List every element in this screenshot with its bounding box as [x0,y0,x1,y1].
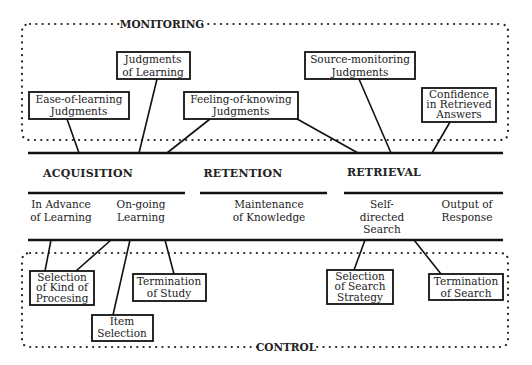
svg-text:of Knowledge: of Knowledge [233,211,306,223]
box-selection-of-kind: Selection of Kind of Procesing [30,271,94,305]
svg-text:of Learning: of Learning [30,211,92,223]
svg-text:Selection: Selection [97,327,147,339]
box-feeling-of-knowing: Feeling-of-knowing Judgments [184,92,298,119]
svg-text:Judgments: Judgments [50,105,108,117]
phase-retrieval: RETRIEVAL [347,166,421,179]
svg-text:Termination: Termination [137,275,202,287]
svg-text:directed: directed [360,211,405,223]
phase-acquisition: ACQUISITION [42,167,133,180]
svg-text:On-going: On-going [117,198,166,210]
box-judgments-of-learning: Judgments of Learning [117,52,190,79]
svg-text:Judgments: Judgments [212,105,270,117]
control-label: CONTROL [256,341,317,353]
monitoring-label: MONITORING [120,18,204,30]
svg-text:Strategy: Strategy [337,291,383,303]
svg-text:Procesing: Procesing [36,292,89,304]
box-termination-of-search: Termination of Search [429,274,503,300]
svg-text:Judgments: Judgments [331,66,389,78]
box-source-monitoring: Source-monitoring Judgments [305,52,415,79]
sub-self-directed: Self- directed Search [360,198,405,235]
svg-text:Feeling-of-knowing: Feeling-of-knowing [190,93,292,105]
svg-text:Judgments: Judgments [124,53,182,65]
box-confidence: Confidence in Retrieved Answers [422,88,496,122]
svg-text:Termination: Termination [434,275,499,287]
svg-text:In Advance: In Advance [31,198,91,210]
phase-retention: RETENTION [204,167,283,180]
svg-text:of Study: of Study [147,287,191,299]
svg-text:Learning: Learning [117,211,165,223]
svg-text:of Learning: of Learning [122,66,184,78]
svg-text:Output of: Output of [442,198,494,210]
sub-output-of-response: Output of Response [442,198,494,223]
box-termination-of-study: Termination of Study [133,274,206,301]
svg-text:Item: Item [110,315,135,327]
box-selection-of-search-strategy: Selection of Search Strategy [327,270,393,304]
svg-text:Maintenance: Maintenance [234,198,303,210]
svg-text:Response: Response [442,211,493,223]
svg-text:of Search: of Search [441,287,492,299]
sub-maintenance: Maintenance of Knowledge [233,198,306,223]
svg-text:Self-: Self- [370,198,394,210]
svg-text:Source-monitoring: Source-monitoring [310,53,410,65]
box-ease-of-learning: Ease-of-learning Judgments [29,92,129,119]
svg-text:Answers: Answers [435,108,481,120]
svg-text:Search: Search [363,223,401,235]
svg-text:Ease-of-learning: Ease-of-learning [36,93,123,105]
sub-on-going: On-going Learning [117,198,166,223]
sub-in-advance: In Advance of Learning [30,198,92,223]
metamemory-diagram: MONITORING CONTROL Ease-of-learning Judg… [0,0,532,365]
box-item-selection: Item Selection [92,315,153,341]
